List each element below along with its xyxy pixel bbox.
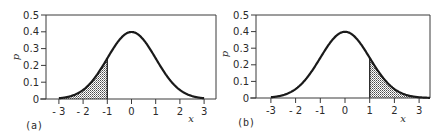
x-tick-label: 0 <box>342 105 348 116</box>
y-axis-label: p <box>219 50 230 57</box>
panel-b-right-tail: 00.10.20.30.40.5-3- 2-10123px(b) <box>219 10 430 129</box>
y-tick-label: 0.1 <box>23 77 39 88</box>
x-tick-label: 1 <box>367 105 373 116</box>
x-axis-label: x <box>188 113 194 124</box>
y-tick-label: 0 <box>243 93 249 104</box>
y-axis-label: p <box>10 53 21 60</box>
y-tick-label: 0.3 <box>23 43 39 54</box>
panel-label: (a) <box>25 120 43 131</box>
y-tick-label: 0.5 <box>23 10 39 21</box>
x-tick-label: 1 <box>153 106 159 117</box>
y-tick-label: 0.4 <box>233 26 249 37</box>
x-tick-label: 0 <box>128 106 134 117</box>
x-tick-label: -3 <box>266 105 276 116</box>
density-curve <box>271 32 430 98</box>
plot-frame <box>46 15 216 99</box>
panel-label: (b) <box>237 117 255 128</box>
y-tick-label: 0.1 <box>233 76 249 87</box>
x-tick-label: 2 <box>177 106 183 117</box>
x-tick-label: 3 <box>416 105 422 116</box>
plot-frame <box>256 15 430 98</box>
x-tick-label: - 2 <box>77 106 90 117</box>
x-tick-label: - 2 <box>289 105 302 116</box>
y-tick-label: 0 <box>33 94 39 105</box>
x-tick-label: - 3 <box>52 106 65 117</box>
x-tick-label: 2 <box>391 105 397 116</box>
x-tick-label: -1 <box>102 106 112 117</box>
x-tick-label: -1 <box>315 105 325 116</box>
y-tick-label: 0.2 <box>23 60 39 71</box>
x-axis-label: x <box>400 113 406 124</box>
normal-distribution-figure: 00.10.20.30.40.5- 3- 2-10123px(a) 00.10.… <box>0 0 442 139</box>
panel-a-left-tail: 00.10.20.30.40.5- 3- 2-10123px(a) <box>10 10 216 132</box>
density-curve <box>59 32 204 98</box>
y-tick-label: 0.4 <box>23 26 39 37</box>
y-tick-label: 0.5 <box>233 10 249 21</box>
y-tick-label: 0.3 <box>233 43 249 54</box>
y-tick-label: 0.2 <box>233 59 249 70</box>
x-tick-label: 3 <box>201 106 207 117</box>
shaded-tail-area <box>59 58 107 99</box>
